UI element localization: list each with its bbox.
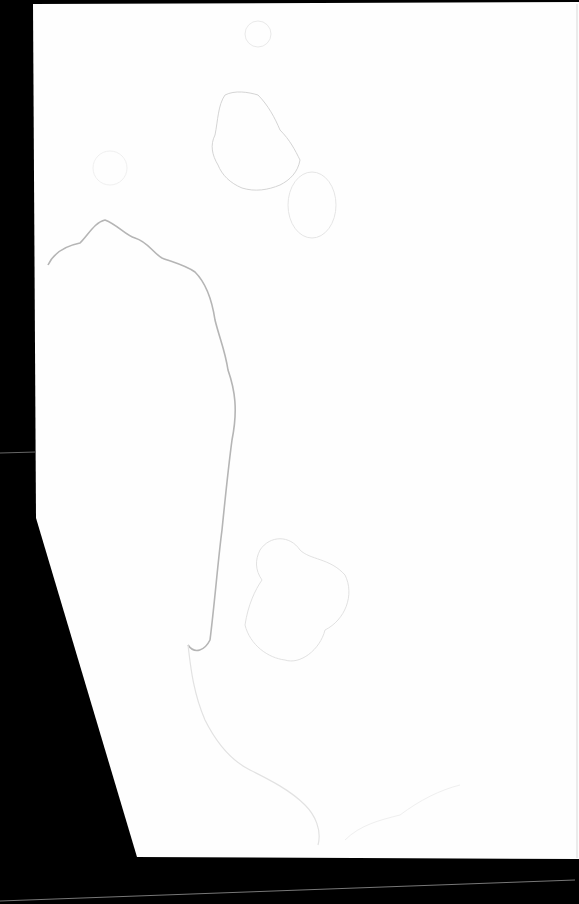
paper-sheet [33,2,579,859]
scanned-page-scene [0,0,579,904]
